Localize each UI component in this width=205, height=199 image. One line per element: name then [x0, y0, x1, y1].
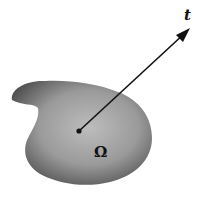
- diagram-canvas: [0, 0, 205, 199]
- base-point-dot: [76, 128, 81, 133]
- region-omega-label: Ω: [94, 143, 107, 161]
- region-omega-shape: [12, 81, 152, 185]
- vector-t-label: t: [184, 6, 191, 24]
